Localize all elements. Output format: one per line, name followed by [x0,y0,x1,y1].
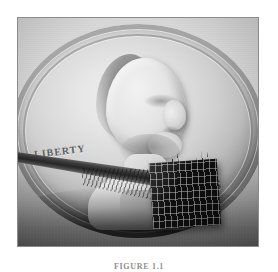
coin-motto-text: INGODWETRUST [50,42,226,104]
chip-sheen [149,159,221,230]
bust-nose [164,100,186,130]
microneedle-array-chip [149,159,221,230]
penny-coin: INGODWETRUST LIBERTY 65 [17,24,259,238]
photograph-frame: INGODWETRUST LIBERTY 65 [17,17,259,247]
figure-block: INGODWETRUST LIBERTY 65 FIGURE 1.1 [0,0,278,272]
bust-lip [162,126,180,135]
bust-chin [148,132,182,158]
figure-caption: FIGURE 1.1 [0,262,278,271]
